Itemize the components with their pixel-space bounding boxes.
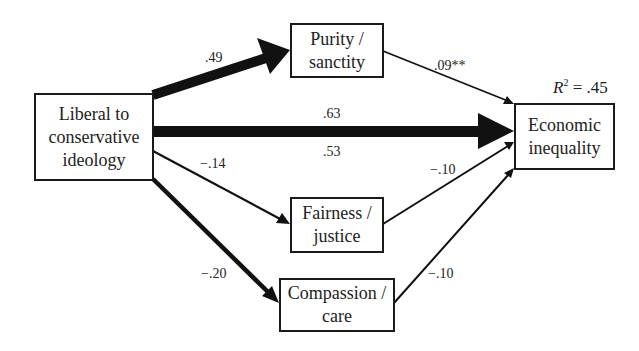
node-purity: Purity / sanctity <box>290 23 384 78</box>
node-ideology-line1: Liberal to <box>59 103 129 126</box>
node-ideology-line2: conservative <box>49 126 140 149</box>
arrow-ideology-to-compassion <box>153 179 279 303</box>
node-purity-line1: Purity / <box>310 28 364 51</box>
node-compassion-line2: care <box>322 305 352 328</box>
path-diagram: Liberal to conservative ideology Purity … <box>0 0 639 351</box>
node-compassion: Compassion / care <box>279 278 395 332</box>
coef-compassion-inequality: −.10 <box>428 266 453 282</box>
r-squared-symbol: R <box>553 78 563 97</box>
arrow-fairness-to-inequality <box>383 142 514 224</box>
r-squared-value: = .45 <box>568 78 607 97</box>
node-inequality: Economic inequality <box>514 103 615 170</box>
node-purity-line2: sanctity <box>309 51 365 74</box>
node-inequality-line1: Economic <box>528 114 601 137</box>
coef-ideology-inequality-direct: .53 <box>323 144 341 160</box>
node-fairness-line1: Fairness / <box>302 202 372 225</box>
node-ideology: Liberal to conservative ideology <box>34 93 154 181</box>
node-fairness-line2: justice <box>314 225 361 248</box>
node-ideology-line3: ideology <box>63 149 126 172</box>
coef-ideology-fairness: −.14 <box>200 156 225 172</box>
node-compassion-line1: Compassion / <box>288 282 387 305</box>
node-inequality-line2: inequality <box>529 137 601 160</box>
arrow-compassion-to-inequality <box>394 168 514 303</box>
arrow-ideology-to-purity <box>153 38 290 95</box>
coef-fairness-inequality: −.10 <box>430 162 455 178</box>
coef-ideology-inequality-total: .63 <box>323 106 341 122</box>
r-squared-label: R2 = .45 <box>553 78 608 98</box>
coef-ideology-compassion: −.20 <box>201 266 226 282</box>
coef-purity-inequality: .09** <box>434 58 466 74</box>
node-fairness: Fairness / justice <box>290 197 384 253</box>
coef-ideology-purity: .49 <box>205 50 223 66</box>
